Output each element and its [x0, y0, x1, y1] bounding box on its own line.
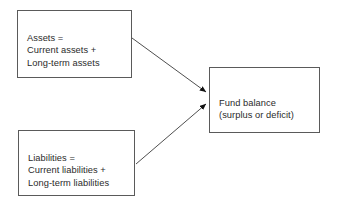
node-fund-balance-text: Fund balance (surplus or deficit) [219, 97, 319, 121]
node-liabilities-text: Liabilities = Current liabilities + Long… [28, 152, 134, 189]
edge-liabilities-to-fund-balance [136, 104, 206, 164]
node-liabilities[interactable]: Liabilities = Current liabilities + Long… [18, 130, 135, 196]
edge-assets-to-fund-balance [132, 38, 206, 92]
node-assets-text: Assets = Current assets + Long-term asse… [27, 32, 131, 69]
node-fund-balance[interactable]: Fund balance (surplus or deficit) [209, 67, 320, 133]
node-assets[interactable]: Assets = Current assets + Long-term asse… [17, 10, 132, 78]
diagram-canvas: Assets = Current assets + Long-term asse… [0, 0, 338, 207]
